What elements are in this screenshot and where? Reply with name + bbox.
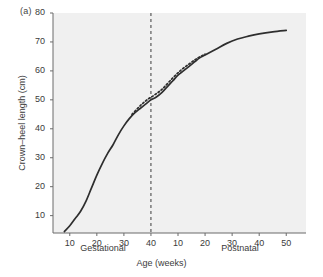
plot-background (53, 13, 306, 233)
figure-panel-a: (a) Crown–heel length (cm) Age (weeks) G… (0, 0, 323, 277)
chart-plot-area (0, 0, 323, 277)
